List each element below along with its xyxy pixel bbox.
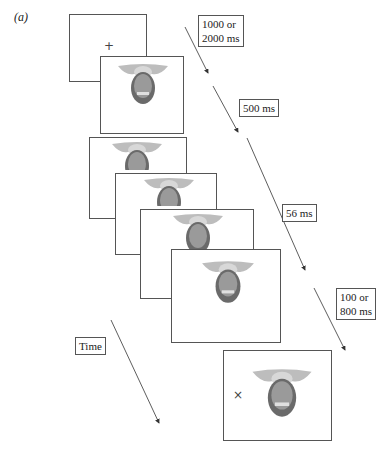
arrow-time: [111, 320, 159, 423]
time-label: Time: [75, 337, 106, 355]
arrow-face: [213, 86, 238, 132]
timing-label-morph: 56 ms: [282, 204, 317, 222]
timing-label-fixation: 1000 or 2000 ms: [198, 15, 244, 47]
timing-label-face: 500 ms: [239, 99, 279, 117]
timeline-arrows: [0, 0, 384, 449]
timing-label-final: 100 or 800 ms: [336, 288, 376, 320]
